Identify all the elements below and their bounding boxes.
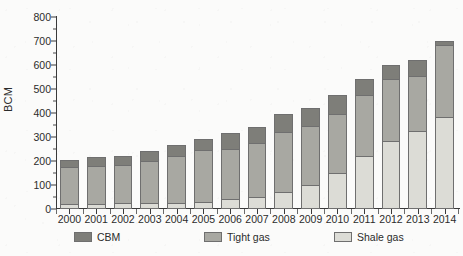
x-axis-tick-label: 2014 <box>431 213 458 225</box>
y-axis-tick-label: 0 <box>45 203 51 215</box>
bar-segment-cbm <box>408 60 427 76</box>
y-axis-tick-label: 400 <box>33 107 51 119</box>
stacked-bar <box>408 60 427 209</box>
bar-segment-shale-gas <box>408 131 427 209</box>
bar-segment-shale-gas <box>167 203 186 209</box>
bar-segment-shale-gas <box>301 185 320 209</box>
bar-segment-cbm <box>114 156 133 165</box>
x-axis-tick-label: 2004 <box>163 213 190 225</box>
bar-segment-tight-gas <box>60 167 79 204</box>
bar-segment-shale-gas <box>60 204 79 209</box>
bar-segment-shale-gas <box>248 197 267 209</box>
bar-segment-tight-gas <box>435 45 454 117</box>
stacked-bar <box>87 157 106 209</box>
stacked-bar <box>382 65 401 209</box>
y-axis-minor-tick <box>53 197 56 198</box>
x-axis-tick-label: 2011 <box>351 213 378 225</box>
stacked-bar <box>60 160 79 209</box>
y-axis-tick-label: 800 <box>33 11 51 23</box>
y-axis-tick-label: 300 <box>33 131 51 143</box>
bar-segment-tight-gas <box>301 126 320 185</box>
x-axis-tick-label: 2002 <box>110 213 137 225</box>
stacked-bar <box>221 133 240 209</box>
bar-segment-shale-gas <box>194 202 213 209</box>
y-axis-tick-label: 600 <box>33 59 51 71</box>
y-axis-line <box>56 16 57 209</box>
bar-segment-tight-gas <box>328 114 347 173</box>
bar-segment-shale-gas <box>328 173 347 209</box>
x-axis-tick-label: 2001 <box>83 213 110 225</box>
bar-segment-shale-gas <box>221 199 240 209</box>
bar-segment-cbm <box>194 139 213 150</box>
bar-segment-cbm <box>167 145 186 156</box>
bar-segment-cbm <box>221 133 240 149</box>
chart-legend: CBMTight gasShale gas <box>56 231 458 249</box>
x-axis-tick-label: 2005 <box>190 213 217 225</box>
y-axis-tick <box>51 65 56 66</box>
stacked-bar <box>301 108 320 209</box>
y-axis-minor-tick <box>53 125 56 126</box>
bar-segment-cbm <box>355 79 374 95</box>
legend-swatch-tight-gas <box>204 232 222 242</box>
stacked-bar <box>328 95 347 209</box>
y-axis-minor-tick <box>53 53 56 54</box>
y-axis-minor-tick <box>53 173 56 174</box>
stacked-bar <box>355 79 374 209</box>
bar-segment-cbm <box>140 151 159 161</box>
legend-label: CBM <box>97 231 120 243</box>
y-axis-title: BCM <box>2 96 14 112</box>
x-axis-tick-label: 2007 <box>244 213 271 225</box>
legend-item[interactable]: CBM <box>74 231 120 243</box>
bar-segment-tight-gas <box>355 95 374 156</box>
bar-segment-shale-gas <box>274 192 293 209</box>
x-axis-tick-label: 2013 <box>404 213 431 225</box>
stacked-bar <box>140 151 159 209</box>
bar-segment-shale-gas <box>382 141 401 209</box>
stacked-bar <box>114 155 133 209</box>
legend-label: Tight gas <box>227 231 270 243</box>
bar-segment-tight-gas <box>87 166 106 204</box>
plot-area: 0100200300400500600700800 20002001200220… <box>56 17 458 209</box>
legend-swatch-cbm <box>74 232 92 242</box>
y-axis-tick-label: 200 <box>33 155 51 167</box>
bar-segment-cbm <box>87 157 106 165</box>
x-axis-tick-label: 2009 <box>297 213 324 225</box>
y-axis-minor-tick <box>53 29 56 30</box>
bar-segment-cbm <box>60 160 79 167</box>
y-axis-tick <box>51 41 56 42</box>
stacked-bar <box>167 145 186 209</box>
stacked-bar <box>248 127 267 209</box>
bar-segment-shale-gas <box>355 156 374 209</box>
bar-segment-shale-gas <box>114 203 133 209</box>
bar-segment-tight-gas <box>248 143 267 197</box>
x-axis-tick-label: 2003 <box>136 213 163 225</box>
x-axis-tick-label: 2000 <box>56 213 83 225</box>
bar-segment-tight-gas <box>194 150 213 202</box>
stacked-bar <box>435 41 454 209</box>
legend-item[interactable]: Shale gas <box>334 231 404 243</box>
bar-segment-shale-gas <box>87 204 106 209</box>
x-axis-boundary-tick <box>458 209 459 214</box>
chart-figure: BCM 0100200300400500600700800 2000200120… <box>0 0 463 256</box>
y-axis-tick <box>51 113 56 114</box>
x-axis-tick-label: 2012 <box>378 213 405 225</box>
bar-segment-tight-gas <box>221 149 240 199</box>
y-axis-tick <box>51 17 56 18</box>
legend-label: Shale gas <box>357 231 404 243</box>
y-axis-tick <box>51 89 56 90</box>
legend-swatch-shale-gas <box>334 232 352 242</box>
bar-segment-cbm <box>274 114 293 132</box>
legend-item[interactable]: Tight gas <box>204 231 270 243</box>
bar-segment-tight-gas <box>408 76 427 131</box>
stacked-bar <box>194 139 213 209</box>
bar-segment-cbm <box>248 127 267 143</box>
bar-segment-shale-gas <box>435 117 454 209</box>
stacked-bar <box>274 114 293 209</box>
bar-segment-tight-gas <box>382 79 401 140</box>
bar-segment-shale-gas <box>140 203 159 209</box>
x-axis-tick-label: 2006 <box>217 213 244 225</box>
bar-segment-tight-gas <box>114 165 133 203</box>
y-axis-tick-label: 100 <box>33 179 51 191</box>
bar-segment-tight-gas <box>167 156 186 203</box>
x-axis-tick-label: 2008 <box>270 213 297 225</box>
